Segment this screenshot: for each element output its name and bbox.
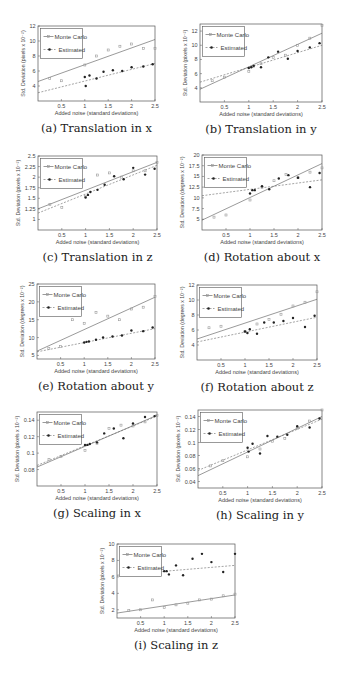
legend: Monte CarloEstimated: [120, 547, 167, 577]
x-axis-label: Added noise (standard deviations): [134, 627, 218, 633]
y-axis-label: Std. Deviation (pixels x 10⁻²): [99, 548, 105, 615]
monte-carlo-point: [210, 598, 212, 600]
monte-carlo-point: [222, 595, 224, 597]
y-tick-label: 8: [111, 557, 114, 563]
monte-carlo-point: [128, 610, 130, 612]
y-tick-label: 10: [108, 541, 114, 547]
monte-carlo-point: [199, 599, 201, 601]
estimated-point: [191, 558, 193, 560]
estimated-point: [165, 570, 167, 572]
estimated-point: [234, 553, 236, 555]
x-tick-label: 1.5: [184, 620, 192, 626]
estimated-point: [201, 553, 203, 555]
chart-svg-i: 0.511.522.5246810Added noise (standard d…: [0, 0, 340, 679]
legend-estimated: Estimated: [138, 565, 165, 571]
y-tick-label: 4: [111, 590, 114, 596]
estimated-point: [175, 564, 177, 566]
y-tick-label: 6: [111, 574, 114, 580]
estimated-point: [222, 571, 224, 573]
x-tick-label: 1: [163, 620, 166, 626]
monte-carlo-point: [175, 604, 177, 606]
x-tick-label: 2.5: [231, 620, 239, 626]
x-tick-label: 0.5: [137, 620, 145, 626]
monte-carlo-point: [151, 599, 153, 601]
legend-monte-carlo: Monte Carlo: [134, 552, 167, 558]
x-tick-label: 2: [210, 620, 213, 626]
estimated-point: [168, 573, 170, 575]
monte-carlo-point: [187, 602, 189, 604]
monte-carlo-point: [163, 606, 165, 608]
estimated-point: [182, 574, 184, 576]
y-tick-label: 2: [111, 607, 114, 613]
caption-i: (i) Scaling in z: [116, 638, 236, 652]
estimated-point: [210, 561, 212, 563]
